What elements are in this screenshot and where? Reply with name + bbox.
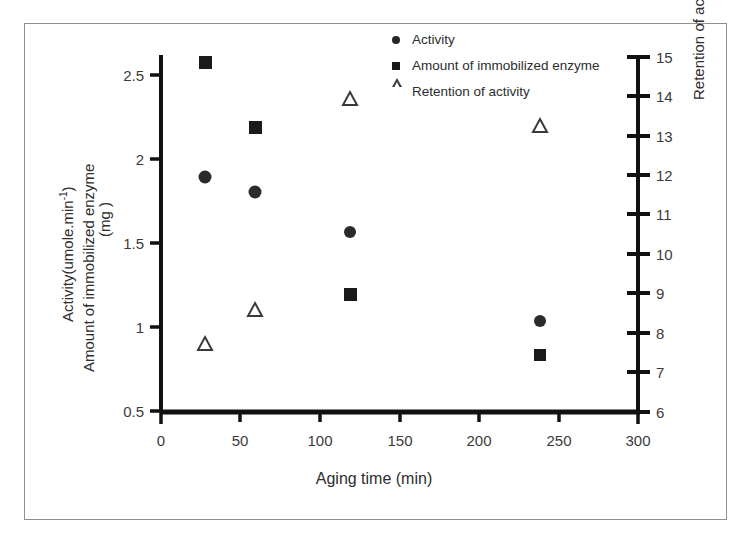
y-left-tick-label: 2.5	[104, 67, 144, 84]
y-right-tick-label: 11	[656, 206, 672, 223]
x-tick-label: 150	[387, 432, 412, 449]
x-tick-label: 200	[466, 432, 491, 449]
data-point-circle	[199, 171, 212, 184]
x-tick-label: 300	[625, 432, 650, 449]
data-point-square	[199, 56, 212, 69]
data-point-triangle	[533, 119, 547, 132]
x-tick-label: 100	[307, 432, 332, 449]
x-tick-label: 250	[546, 432, 571, 449]
data-point-circle	[249, 186, 262, 199]
series-activity	[199, 171, 547, 328]
y-right-tick-label: 6	[656, 404, 664, 421]
data-point-triangle	[343, 92, 357, 105]
data-point-square	[344, 288, 357, 301]
y-right-tick-label: 8	[656, 325, 664, 342]
y-right-tick-label: 13	[656, 128, 673, 145]
y-left-tick-label: 1.5	[104, 235, 144, 252]
data-point-triangle	[248, 303, 262, 316]
y-right-tick-label: 15	[656, 49, 673, 66]
data-point-triangle	[198, 337, 212, 350]
axis-lines	[161, 55, 640, 412]
figure-container: Activity(umole.min-1) Amount of immobili…	[0, 0, 748, 536]
x-tick-label: 50	[232, 432, 249, 449]
x-tick-label: 0	[157, 432, 165, 449]
y-right-tick-label: 14	[656, 88, 673, 105]
y-right-tick-label: 9	[656, 285, 664, 302]
y-right-tick-label: 7	[656, 364, 664, 381]
data-point-circle	[344, 226, 356, 238]
data-point-square	[249, 121, 262, 134]
data-point-circle	[534, 315, 546, 327]
y-left-tick-label: 0.5	[104, 403, 144, 420]
y-right-tick-label: 12	[656, 167, 673, 184]
data-point-square	[534, 349, 546, 361]
y-left-tick-label: 1	[104, 319, 144, 336]
y-right-tick-label: 10	[656, 246, 673, 263]
y-left-tick-label: 2	[104, 151, 144, 168]
